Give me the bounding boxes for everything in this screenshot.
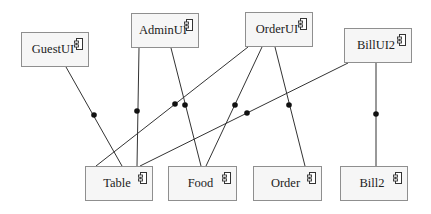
component-icon bbox=[393, 172, 402, 184]
interface-dot-icon bbox=[172, 101, 178, 107]
component-icon bbox=[307, 172, 316, 184]
component-icon bbox=[222, 172, 231, 184]
component-label: OrderUI bbox=[256, 22, 302, 37]
component-label: Table bbox=[103, 176, 135, 191]
component-adminui[interactable]: AdminUI bbox=[131, 13, 199, 48]
dependency-guestui-table bbox=[66, 67, 122, 166]
interface-dot-icon bbox=[232, 102, 238, 108]
dependency-billui2-bill2 bbox=[373, 63, 379, 166]
component-guestui[interactable]: GuestUI bbox=[21, 32, 89, 67]
component-icon bbox=[184, 19, 193, 31]
component-label: Bill2 bbox=[359, 176, 388, 191]
dependency-orderui-table bbox=[96, 47, 248, 166]
component-label: BillUI2 bbox=[357, 38, 399, 53]
interface-dot-icon bbox=[182, 102, 188, 108]
connector-line bbox=[140, 63, 348, 166]
component-icon bbox=[138, 172, 147, 184]
connector-line bbox=[96, 47, 248, 166]
interface-dot-icon bbox=[286, 102, 292, 108]
component-label: GuestUI bbox=[32, 42, 78, 57]
dependency-adminui-table bbox=[134, 48, 140, 166]
dependency-orderui-food bbox=[206, 47, 262, 166]
interface-dot-icon bbox=[91, 112, 97, 118]
component-billui2[interactable]: BillUI2 bbox=[344, 28, 412, 63]
interface-dot-icon bbox=[373, 111, 379, 117]
component-bill2[interactable]: Bill2 bbox=[340, 166, 408, 201]
component-table[interactable]: Table bbox=[85, 166, 153, 201]
component-label: Order bbox=[271, 176, 304, 191]
component-icon bbox=[298, 18, 307, 30]
dependency-billui2-table bbox=[140, 63, 348, 166]
component-label: Food bbox=[188, 176, 218, 191]
component-icon bbox=[397, 34, 406, 46]
dependency-orderui-order bbox=[275, 47, 305, 166]
interface-dot-icon bbox=[244, 110, 250, 116]
component-icon bbox=[74, 38, 83, 50]
component-orderui[interactable]: OrderUI bbox=[245, 12, 313, 47]
connector-line bbox=[137, 48, 139, 166]
component-order[interactable]: Order bbox=[253, 166, 322, 201]
interface-dot-icon bbox=[134, 108, 140, 114]
component-food[interactable]: Food bbox=[168, 166, 237, 201]
